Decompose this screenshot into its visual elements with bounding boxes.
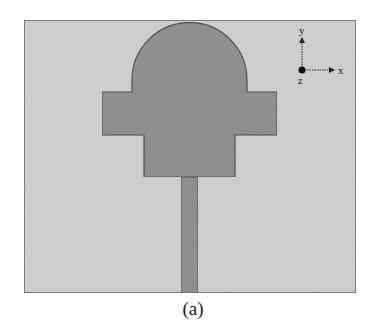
figure-caption: (a) — [0, 298, 386, 320]
x-axis-label: x — [338, 64, 344, 76]
z-axis-dot — [299, 67, 306, 74]
y-axis-label: y — [299, 24, 305, 36]
antenna-diagram: y x z — [0, 0, 386, 335]
z-axis-label: z — [298, 75, 303, 86]
microstrip-feed-line — [181, 177, 198, 293]
